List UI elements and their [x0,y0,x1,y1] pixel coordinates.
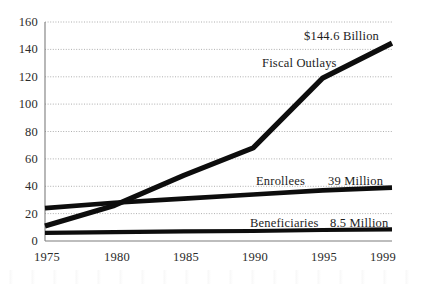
x-tick-1990: 1990 [242,250,268,264]
x-axis-tick-labels: 1975 1980 1985 1990 1995 1999 [34,250,396,264]
y-tick-60: 60 [25,152,38,166]
y-tick-140: 140 [19,42,38,56]
y-tick-160: 160 [19,15,38,29]
y-tick-100: 100 [19,97,38,111]
y-tick-40: 40 [25,179,38,193]
y-tick-0: 0 [32,234,38,248]
x-tick-1999: 1999 [370,250,396,264]
annotation-beneficiaries-value: 8.5 Million [330,216,389,230]
x-tick-1980: 1980 [104,250,130,264]
annotation-enrollees-value: 39 Million [328,174,384,188]
x-tick-1975: 1975 [34,250,60,264]
annotation-enrollees-name: Enrollees [256,174,305,188]
annotation-outlays-name: Fiscal Outlays [262,56,337,70]
y-axis-tick-labels: 160 140 120 100 80 60 40 20 0 [19,15,38,248]
annotation-beneficiaries-name: Beneficiaries [250,216,319,230]
x-tick-1985: 1985 [173,250,199,264]
annotation-outlays-callout: $144.6 Billion [304,29,380,43]
line-chart-canvas: 160 140 120 100 80 60 40 20 0 1975 1980 … [0,0,421,284]
y-tick-20: 20 [25,207,38,221]
y-tick-120: 120 [19,70,38,84]
chart-figure: 160 140 120 100 80 60 40 20 0 1975 1980 … [0,0,421,284]
y-tick-80: 80 [25,125,38,139]
x-tick-1995: 1995 [311,250,337,264]
series-line-enrollees [45,188,392,209]
